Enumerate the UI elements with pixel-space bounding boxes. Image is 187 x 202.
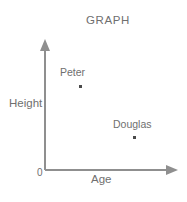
- y-axis-arrowhead-icon: [40, 39, 50, 51]
- x-axis-label: Age: [91, 174, 111, 186]
- data-point-marker-douglas: [133, 136, 136, 139]
- origin-tick-label: 0: [37, 168, 43, 178]
- chart-title: GRAPH: [86, 15, 130, 27]
- y-axis-label: Height: [9, 98, 42, 110]
- data-point-label-peter: Peter: [60, 67, 85, 78]
- x-axis-arrowhead-icon: [166, 165, 178, 175]
- graph-figure: GRAPH Height Age 0 Peter Douglas: [0, 0, 187, 202]
- data-point-label-douglas: Douglas: [113, 119, 152, 130]
- data-point-marker-peter: [79, 85, 82, 88]
